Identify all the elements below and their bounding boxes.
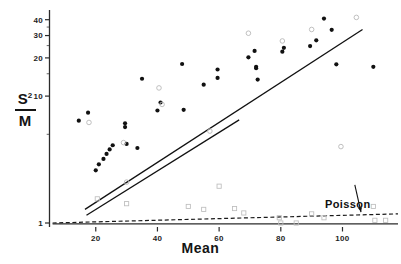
- data-point: [246, 55, 250, 59]
- y-axis-title: S2 M: [8, 90, 42, 130]
- data-point: [254, 66, 258, 70]
- data-point: [97, 162, 101, 166]
- y-axis-numerator-exponent: 2: [28, 91, 32, 100]
- poisson-annotation-label: Poisson: [325, 198, 371, 210]
- data-point: [314, 38, 318, 42]
- data-point: [186, 204, 190, 208]
- data-point: [371, 204, 375, 208]
- data-point: [86, 111, 90, 115]
- y-axis-numerator: S2: [18, 91, 32, 107]
- data-point: [101, 157, 105, 161]
- data-point: [282, 46, 286, 50]
- data-points: [77, 15, 388, 225]
- data-point: [310, 212, 314, 216]
- data-point: [208, 129, 213, 134]
- data-point: [330, 28, 334, 32]
- data-point: [309, 27, 314, 32]
- data-point: [334, 62, 338, 66]
- tick-labels: 11020304020406080100: [34, 16, 350, 243]
- y-axis-ticks: [45, 20, 50, 223]
- data-point: [202, 83, 206, 87]
- data-point: [277, 216, 281, 220]
- y-tick-label: 20: [34, 54, 44, 63]
- trend-lines: [53, 29, 398, 223]
- x-axis-ticks: [96, 227, 343, 232]
- data-point: [252, 49, 256, 53]
- x-axis-title: Mean: [0, 240, 401, 256]
- data-point: [182, 108, 186, 112]
- data-point: [123, 125, 127, 129]
- data-point: [108, 147, 112, 151]
- data-point: [125, 202, 129, 206]
- data-point: [123, 121, 127, 125]
- data-point: [373, 218, 377, 222]
- poisson-reference-line: [53, 214, 398, 223]
- data-point: [180, 62, 184, 66]
- data-point: [217, 184, 221, 188]
- data-point: [111, 143, 115, 147]
- chart-figure: 11020304020406080100 S2 M Mean Poisson: [0, 0, 401, 264]
- y-tick-label: 1: [38, 219, 43, 228]
- data-point: [384, 218, 388, 222]
- data-point: [246, 31, 251, 36]
- data-point: [104, 152, 108, 156]
- data-point: [232, 206, 236, 210]
- data-point: [202, 207, 206, 211]
- data-point: [371, 65, 375, 69]
- fraction-bar: [15, 109, 36, 111]
- data-point: [135, 146, 139, 150]
- y-axis-denominator: M: [19, 113, 32, 129]
- data-point: [155, 108, 159, 112]
- lower-regression-line: [87, 120, 240, 215]
- data-point: [215, 67, 219, 71]
- data-point: [256, 77, 260, 81]
- y-tick-label: 40: [34, 16, 44, 25]
- data-point: [322, 17, 326, 21]
- data-point: [140, 77, 144, 81]
- data-point: [280, 39, 285, 44]
- data-point: [354, 15, 359, 20]
- data-point: [77, 119, 81, 123]
- y-tick-label: 30: [34, 31, 44, 40]
- data-point: [308, 44, 312, 48]
- scatter-plot-canvas: 11020304020406080100: [0, 0, 401, 264]
- data-point: [87, 120, 92, 125]
- data-point: [94, 168, 98, 172]
- y-axis-numerator-symbol: S: [18, 90, 28, 107]
- data-point: [215, 76, 219, 80]
- upper-regression-line: [85, 29, 363, 209]
- data-point: [339, 144, 344, 149]
- data-point: [157, 86, 162, 91]
- data-point: [242, 211, 246, 215]
- data-point: [280, 50, 284, 54]
